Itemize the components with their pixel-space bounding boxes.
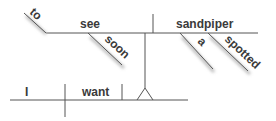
word-sandpiper: sandpiper xyxy=(176,17,234,31)
word-a: a xyxy=(195,34,210,49)
word-soon: soon xyxy=(102,32,133,62)
pedestal xyxy=(137,33,153,100)
spotted-modifier: spotted xyxy=(208,32,263,74)
a-modifier: a xyxy=(180,33,214,72)
soon-modifier: soon xyxy=(88,32,133,68)
to-modifier: to xyxy=(24,5,46,34)
word-want: want xyxy=(81,85,109,99)
word-see: see xyxy=(80,17,100,31)
word-I: I xyxy=(25,85,28,99)
sentence-diagram: to see soon sandpiper a spotted I want xyxy=(0,0,276,121)
